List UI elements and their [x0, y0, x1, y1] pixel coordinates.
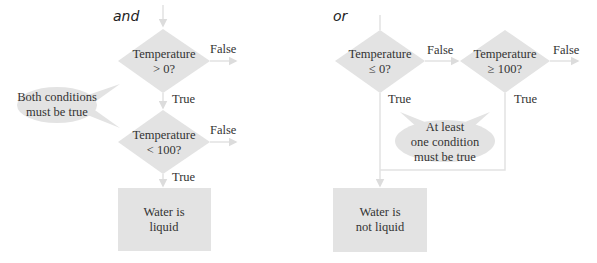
decision-text: < 100?	[133, 143, 196, 158]
and-decision-2-label: Temperature < 100?	[133, 128, 196, 158]
or-decision-2-label: Temperature ≥ 100?	[474, 47, 537, 77]
callout-text: At least	[411, 120, 479, 135]
callout-text: must be true	[17, 105, 97, 120]
or-true-label-2: True	[514, 92, 537, 107]
callout-text: Both conditions	[17, 90, 97, 105]
decision-text: Temperature	[133, 128, 196, 143]
result-text: liquid	[144, 220, 185, 235]
and-true-label-2: True	[172, 170, 195, 185]
result-text: not liquid	[356, 220, 404, 235]
result-text: Water is	[356, 205, 404, 220]
or-false-label-2: False	[553, 43, 579, 58]
flowchart-canvas	[0, 0, 597, 263]
or-callout-text: At least one condition must be true	[411, 120, 479, 165]
and-diagram	[17, 5, 236, 251]
or-false-label-1: False	[427, 43, 453, 58]
or-result-text: Water is not liquid	[356, 205, 404, 235]
decision-text: Temperature	[349, 47, 412, 62]
decision-text: > 0?	[133, 62, 196, 77]
and-false-label-1: False	[210, 42, 236, 57]
and-callout-text: Both conditions must be true	[17, 90, 97, 120]
callout-text: must be true	[411, 150, 479, 165]
or-decision-1-label: Temperature ≤ 0?	[349, 47, 412, 77]
and-title: and	[113, 8, 139, 24]
and-result-text: Water is liquid	[144, 205, 185, 235]
and-false-label-2: False	[210, 123, 236, 138]
decision-text: ≤ 0?	[349, 62, 412, 77]
or-true-label-1: True	[388, 92, 411, 107]
and-decision-1-label: Temperature > 0?	[133, 47, 196, 77]
decision-text: Temperature	[133, 47, 196, 62]
callout-text: one condition	[411, 135, 479, 150]
or-title: or	[333, 8, 347, 24]
decision-text: ≥ 100?	[474, 62, 537, 77]
decision-text: Temperature	[474, 47, 537, 62]
and-true-label-1: True	[172, 92, 195, 107]
result-text: Water is	[144, 205, 185, 220]
